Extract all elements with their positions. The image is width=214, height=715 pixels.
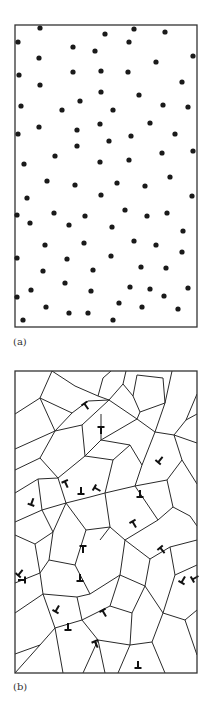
point-dot <box>162 29 167 34</box>
cell-boundary-line <box>110 606 132 613</box>
point-dot <box>108 253 113 258</box>
cell-boundary-line <box>38 478 58 479</box>
point-dot <box>74 127 79 132</box>
cell-boundary-line <box>40 431 55 458</box>
figure-canvas <box>0 0 214 715</box>
dislocation-t-icon <box>62 480 71 489</box>
panel-a-points <box>14 25 195 322</box>
cell-boundary-line <box>185 620 197 655</box>
cell-boundary-line <box>15 510 42 522</box>
point-dot <box>179 249 184 254</box>
cell-boundary-line <box>110 575 120 606</box>
cell-boundary-line <box>145 586 163 613</box>
dislocation-t-icon <box>78 487 85 494</box>
cell-boundary-line <box>66 497 90 503</box>
cell-boundary-line <box>152 613 163 642</box>
cell-boundary-line <box>152 642 165 673</box>
cell-boundary-line <box>123 384 133 396</box>
cell-boundary-line <box>55 425 82 431</box>
cell-boundary-line <box>40 628 55 645</box>
point-dot <box>161 293 166 298</box>
dislocation-t-icon <box>135 661 142 668</box>
point-dot <box>114 180 119 185</box>
cell-boundary-line <box>40 560 49 573</box>
point-dot <box>59 107 64 112</box>
point-dot <box>92 48 97 53</box>
cell-boundary-line <box>40 458 58 478</box>
cell-boundary-line <box>130 642 152 645</box>
cell-boundary-line <box>174 435 182 460</box>
point-dot <box>110 317 115 322</box>
point-dot <box>175 306 180 311</box>
cell-boundary-line <box>75 386 98 396</box>
cell-boundary-line <box>15 431 55 449</box>
cell-boundary-line <box>167 480 173 507</box>
cell-boundary-line <box>135 486 158 520</box>
point-dot <box>185 104 190 109</box>
cell-boundary-line <box>167 460 182 480</box>
cell-boundary-line <box>190 516 197 526</box>
cell-boundary-line <box>35 544 40 573</box>
point-dot <box>15 131 20 136</box>
point-dot <box>126 39 131 44</box>
point-dot <box>189 193 194 198</box>
cell-boundary-line <box>98 640 130 645</box>
cell-boundary-line <box>182 460 197 484</box>
cell-boundary-line <box>100 527 110 540</box>
cell-boundary-line <box>55 628 63 673</box>
cell-boundary-line <box>15 594 43 613</box>
cell-boundary-line <box>77 597 82 620</box>
point-dot <box>70 44 75 49</box>
cell-boundary-line <box>82 400 109 425</box>
dislocation-t-icon <box>52 604 62 614</box>
cell-boundary-line <box>165 371 172 403</box>
cell-boundary-line <box>133 396 140 412</box>
cell-boundary-line <box>88 400 109 401</box>
point-dot <box>110 107 115 112</box>
point-dot <box>70 69 75 74</box>
cell-boundary-line <box>42 510 53 532</box>
point-dot <box>64 256 69 261</box>
cell-boundary-line <box>130 445 142 465</box>
point-dot <box>131 26 136 31</box>
cell-boundary-line <box>145 559 150 586</box>
point-dot <box>66 310 71 315</box>
cell-boundary-line <box>170 540 197 547</box>
cell-boundary-line <box>82 425 85 456</box>
dislocation-t-icon <box>93 484 103 494</box>
point-dot <box>142 183 147 188</box>
cell-boundary-line <box>185 610 197 620</box>
cell-boundary-line <box>118 645 130 673</box>
cell-boundary-line <box>15 535 35 544</box>
point-dot <box>52 153 57 158</box>
point-dot <box>109 224 114 229</box>
point-dot <box>42 242 47 247</box>
point-dot <box>185 285 190 290</box>
dislocation-t-icon <box>98 427 105 434</box>
point-dot <box>116 300 121 305</box>
cell-boundary-line <box>158 507 173 520</box>
cell-boundary-line <box>120 540 125 575</box>
cell-boundary-line <box>137 375 163 378</box>
cell-boundary-line <box>15 479 38 493</box>
point-dot <box>138 264 143 269</box>
cell-boundary-line <box>133 375 137 396</box>
dislocation-t-icon <box>65 623 72 630</box>
point-dot <box>37 82 42 87</box>
cell-boundary-line <box>155 403 165 432</box>
cell-boundary-line <box>135 465 142 486</box>
cell-boundary-line <box>85 456 113 460</box>
cell-boundary-line <box>75 530 86 565</box>
cell-boundary-line <box>40 573 43 594</box>
cell-boundary-line <box>90 493 105 497</box>
point-dot <box>43 304 48 309</box>
cell-boundary-line <box>49 532 53 560</box>
cell-boundary-line <box>174 420 186 435</box>
point-dot <box>172 131 177 136</box>
point-dot <box>88 288 93 293</box>
point-dot <box>106 138 111 143</box>
cell-boundary-line <box>130 613 132 645</box>
cell-boundary-line <box>98 640 105 673</box>
point-dot <box>180 228 185 233</box>
cell-boundary-line <box>42 503 66 510</box>
